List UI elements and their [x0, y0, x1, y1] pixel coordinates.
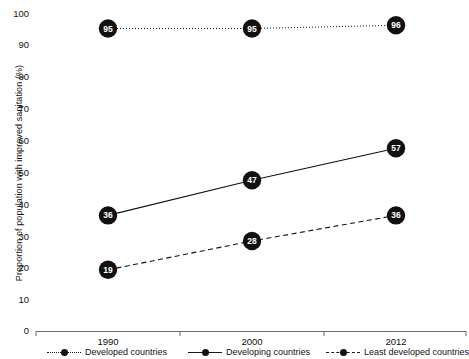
data-point-developing-2000: 47	[243, 171, 261, 189]
sanitation-line-chart: Proportion of population with improved s…	[0, 0, 469, 359]
legend-label-least-developed: Least developed countries	[364, 347, 469, 357]
data-label-developed-2000: 95	[247, 24, 257, 34]
plot-area: 95 95 96 36 47 57 19 28	[0, 0, 469, 359]
data-label-developing-2000: 47	[247, 175, 257, 185]
data-label-developing-2012: 57	[391, 143, 401, 153]
data-point-least-developed-2000: 28	[243, 232, 261, 250]
data-label-developed-1990: 95	[103, 24, 113, 34]
legend-item-developed[interactable]: Developed countries	[47, 345, 167, 359]
data-label-developed-2012: 96	[391, 20, 401, 30]
data-label-developing-1990: 36	[103, 210, 113, 220]
legend-label-developed: Developed countries	[85, 347, 167, 357]
legend-label-developing: Developing countries	[226, 347, 310, 357]
data-point-developing-2012: 57	[387, 139, 405, 157]
data-label-least-developed-2012: 36	[391, 210, 401, 220]
chart-legend: Developed countries Developing countries…	[0, 345, 469, 359]
legend-item-developing[interactable]: Developing countries	[188, 345, 310, 359]
legend-item-least-developed[interactable]: Least developed countries	[326, 345, 469, 359]
data-point-developed-2000: 95	[243, 19, 261, 37]
data-point-developed-1990: 95	[99, 19, 117, 37]
data-label-least-developed-2000: 28	[247, 236, 257, 246]
data-point-developed-2012: 96	[387, 16, 405, 34]
legend-marker-dashed-icon	[326, 346, 360, 358]
data-point-developing-1990: 36	[99, 206, 117, 224]
data-label-least-developed-1990: 19	[103, 265, 113, 275]
legend-marker-solid-icon	[188, 346, 222, 358]
data-point-least-developed-2012: 36	[387, 206, 405, 224]
data-point-least-developed-1990: 19	[99, 261, 117, 279]
legend-marker-dotted-icon	[47, 346, 81, 358]
